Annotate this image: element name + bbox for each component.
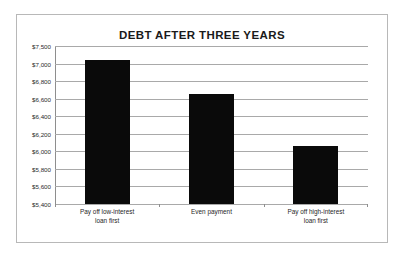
x-axis-category-labels: Pay off low-interestloan firstEven payme… bbox=[55, 208, 368, 242]
y-axis-tick-labels: $7,500$7,000$6,800$6,600$6,400$6,200$6,0… bbox=[17, 46, 51, 204]
y-axis-tick-label: $6,200 bbox=[32, 130, 51, 137]
plot-area bbox=[55, 46, 368, 204]
x-axis-tick bbox=[159, 204, 160, 207]
x-axis-category-label-line: Pay off low-interest bbox=[55, 208, 159, 217]
x-axis-tick bbox=[264, 204, 265, 207]
y-axis-tick-label: $6,600 bbox=[32, 95, 51, 102]
chart-frame: DEBT AFTER THREE YEARS $7,500$7,000$6,80… bbox=[16, 14, 388, 243]
bars-layer bbox=[55, 46, 368, 204]
x-axis-category-label: Even payment bbox=[159, 208, 263, 217]
x-axis-tick bbox=[367, 204, 368, 207]
x-axis-category-label-line: Even payment bbox=[159, 208, 263, 217]
x-axis-category-label: Pay off low-interestloan first bbox=[55, 208, 159, 225]
x-axis-category-label: Pay off high-interestloan first bbox=[264, 208, 368, 225]
x-axis-category-label-line: Pay off high-interest bbox=[264, 208, 368, 217]
y-axis-tick-label: $5,600 bbox=[32, 183, 51, 190]
x-axis-tick bbox=[55, 204, 56, 207]
y-axis-tick-label: $7,000 bbox=[32, 60, 51, 67]
y-axis-tick-label: $6,000 bbox=[32, 148, 51, 155]
bar[interactable] bbox=[293, 146, 338, 204]
y-axis-tick-label: $6,400 bbox=[32, 113, 51, 120]
y-axis-tick-label: $5,800 bbox=[32, 165, 51, 172]
x-axis-category-label-line: loan first bbox=[55, 217, 159, 226]
bar[interactable] bbox=[85, 60, 130, 204]
x-axis-category-label-line: loan first bbox=[264, 217, 368, 226]
y-axis-tick-label: $7,500 bbox=[32, 43, 51, 50]
chart-title: DEBT AFTER THREE YEARS bbox=[17, 29, 387, 41]
y-axis-tick-label: $6,800 bbox=[32, 78, 51, 85]
y-axis-tick-label: $5,400 bbox=[32, 201, 51, 208]
bar[interactable] bbox=[189, 94, 234, 204]
